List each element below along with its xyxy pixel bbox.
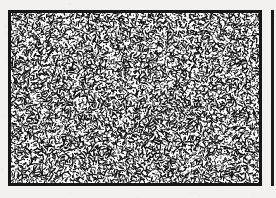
adjacent-panel-left-rule (271, 10, 276, 186)
figure-plate (0, 0, 276, 198)
random-dot-texture-panel (8, 10, 262, 186)
texture-canvas (11, 13, 259, 183)
